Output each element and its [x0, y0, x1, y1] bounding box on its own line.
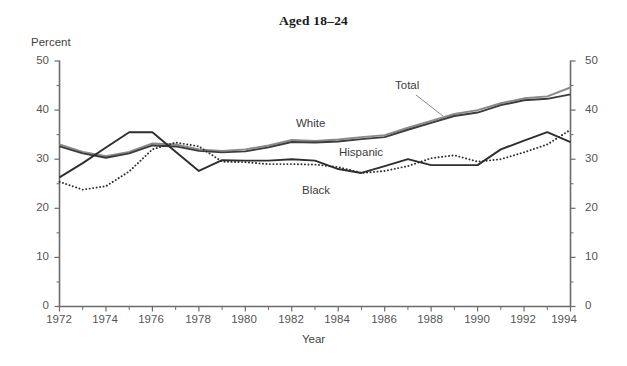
series-group: [60, 88, 571, 190]
chart-figure: Aged 18–24 Percent Year 50 40 30 20 10 0…: [0, 0, 627, 366]
total-leader-line: [416, 95, 443, 116]
series-line-hispanic: [60, 130, 571, 190]
axes-group: [55, 61, 576, 312]
series-line-black: [60, 132, 571, 177]
plot-area: [0, 0, 627, 366]
series-line-white: [60, 94, 571, 157]
leader-lines-group: [416, 95, 443, 116]
series-line-total: [60, 88, 571, 157]
